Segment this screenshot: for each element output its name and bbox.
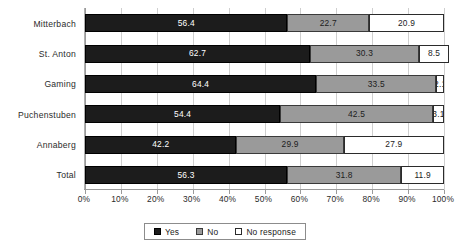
bar-segment-noresp[interactable]: 3.1	[433, 105, 444, 123]
bar-row[interactable]: 56.422.720.9	[85, 14, 444, 32]
bar-value-label: 29.9	[282, 140, 299, 148]
gridline-20	[157, 8, 158, 190]
category-label: Puchenstuben	[0, 110, 76, 120]
gridline-60	[300, 8, 301, 190]
bar-segment-no[interactable]: 22.7	[287, 14, 368, 32]
bar-value-label: 3.1	[433, 110, 444, 118]
gridline-70	[336, 8, 337, 190]
plot-area: 56.422.720.962.730.38.564.433.52.154.442…	[84, 8, 443, 190]
bar-value-label: 64.4	[192, 80, 209, 88]
bar-segment-noresp[interactable]: 11.9	[401, 166, 444, 184]
bar-value-label: 8.5	[428, 49, 440, 57]
bar-value-label: 33.5	[368, 80, 385, 88]
x-tick-label: 30%	[172, 194, 212, 204]
x-tick-label: 50%	[244, 194, 284, 204]
bar-value-label: 22.7	[320, 19, 337, 27]
x-tick-label: 60%	[279, 194, 319, 204]
bar-value-label: 20.9	[398, 19, 415, 27]
gridline-90	[408, 8, 409, 190]
bar-segment-yes[interactable]: 56.3	[85, 166, 287, 184]
x-tick-label: 40%	[208, 194, 248, 204]
bar-row[interactable]: 64.433.52.1	[85, 75, 444, 93]
x-tick-label: 70%	[315, 194, 355, 204]
gridline-30	[193, 8, 194, 190]
legend-swatch-no-icon	[196, 228, 203, 235]
gridline-80	[372, 8, 373, 190]
category-label: St. Anton	[0, 49, 76, 59]
legend-item[interactable]: Yes	[154, 227, 179, 237]
stacked-bar-chart: MitterbachSt. AntonGamingPuchenstubenAnn…	[0, 0, 461, 246]
x-tick-label: 0%	[64, 194, 104, 204]
bar-row[interactable]: 56.331.811.9	[85, 166, 444, 184]
legend-swatch-yes-icon	[154, 228, 161, 235]
bar-value-label: 56.3	[178, 171, 195, 179]
bar-value-label: 62.7	[189, 49, 206, 57]
chart-legend: YesNoNo response	[144, 223, 306, 240]
bar-segment-noresp[interactable]: 20.9	[369, 14, 444, 32]
category-axis-labels: MitterbachSt. AntonGamingPuchenstubenAnn…	[0, 8, 80, 190]
category-label: Annaberg	[0, 140, 76, 150]
gridline-40	[229, 8, 230, 190]
bar-row[interactable]: 62.730.38.5	[85, 45, 444, 63]
x-axis-tick-labels: 0%10%20%30%40%50%60%70%80%90%100%	[84, 194, 444, 208]
x-tick-label: 10%	[100, 194, 140, 204]
bar-value-label: 27.9	[385, 140, 402, 148]
x-tick-label: 90%	[387, 194, 427, 204]
legend-label: No response	[246, 227, 296, 237]
bar-segment-no[interactable]: 30.3	[310, 45, 419, 63]
legend-swatch-noresp-icon	[235, 228, 242, 235]
bar-value-label: 42.2	[152, 140, 169, 148]
bar-value-label: 56.4	[178, 19, 195, 27]
chart-title	[0, 0, 461, 3]
bar-value-label: 31.8	[336, 171, 353, 179]
category-label: Gaming	[0, 79, 76, 89]
bar-segment-yes[interactable]: 54.4	[85, 105, 280, 123]
legend-label: No	[207, 227, 218, 237]
gridline-0	[85, 8, 86, 190]
bar-value-label: 11.9	[414, 171, 430, 179]
bar-segment-yes[interactable]: 42.2	[85, 136, 236, 154]
bar-segment-noresp[interactable]: 2.1	[436, 75, 444, 93]
bar-value-label: 42.5	[348, 110, 365, 118]
bar-value-label: 2.1	[436, 80, 444, 88]
x-tick-label: 80%	[351, 194, 391, 204]
bar-segment-yes[interactable]: 56.4	[85, 14, 287, 32]
legend-item[interactable]: No response	[235, 227, 296, 237]
gridline-10	[121, 8, 122, 190]
bar-segment-no[interactable]: 33.5	[316, 75, 436, 93]
category-label: Mitterbach	[0, 19, 76, 29]
category-label: Total	[0, 170, 76, 180]
bar-segment-no[interactable]: 29.9	[236, 136, 343, 154]
bar-segment-yes[interactable]: 64.4	[85, 75, 316, 93]
bar-row[interactable]: 54.442.53.1	[85, 105, 444, 123]
bar-value-label: 54.4	[174, 110, 191, 118]
legend-item[interactable]: No	[196, 227, 218, 237]
bar-value-label: 30.3	[356, 49, 373, 57]
bar-segment-yes[interactable]: 62.7	[85, 45, 310, 63]
bar-segment-no[interactable]: 31.8	[287, 166, 401, 184]
legend-label: Yes	[165, 227, 179, 237]
x-tick-label: 100%	[423, 194, 461, 204]
bar-segment-noresp[interactable]: 8.5	[419, 45, 450, 63]
gridline-100	[444, 8, 445, 190]
bar-segment-noresp[interactable]: 27.9	[344, 136, 444, 154]
bar-row[interactable]: 42.229.927.9	[85, 136, 444, 154]
x-axis-line	[84, 189, 444, 190]
gridline-50	[265, 8, 266, 190]
x-tick-label: 20%	[136, 194, 176, 204]
bar-segment-no[interactable]: 42.5	[280, 105, 433, 123]
